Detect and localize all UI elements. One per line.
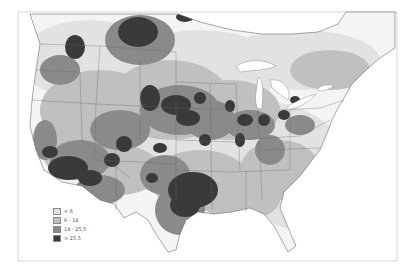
contour-region <box>78 170 102 186</box>
contour-region <box>255 135 285 165</box>
contour-region <box>153 143 167 153</box>
legend-label: < 6 <box>64 208 73 215</box>
contour-region <box>258 114 270 126</box>
legend-label: 6 - 14 <box>64 217 79 224</box>
legend-swatch <box>53 235 61 242</box>
legend-item: > 25.5 <box>53 234 86 242</box>
contour-region <box>176 110 200 126</box>
contour-region <box>194 92 206 104</box>
legend-label: > 25.5 <box>64 235 81 242</box>
legend: < 6 6 - 14 14 - 25.5 > 25.5 <box>53 207 86 243</box>
legend-item: 14 - 25.5 <box>53 225 86 233</box>
contour-region <box>118 17 158 47</box>
contour-region <box>237 114 253 126</box>
contour-region <box>116 136 132 152</box>
contour-region <box>104 153 120 167</box>
contour-region <box>278 110 290 120</box>
contour-region <box>42 146 58 158</box>
contour-region <box>146 173 158 183</box>
legend-swatch <box>53 217 61 224</box>
contour-region <box>199 134 211 146</box>
legend-item: 6 - 14 <box>53 216 86 224</box>
contour-region <box>65 35 85 59</box>
contour-region <box>285 115 315 135</box>
legend-label: 14 - 25.5 <box>64 226 86 233</box>
contour-region <box>40 55 80 85</box>
legend-swatch <box>53 226 61 233</box>
legend-swatch <box>53 208 61 215</box>
legend-item: < 6 <box>53 207 86 215</box>
contour-region <box>225 100 235 112</box>
